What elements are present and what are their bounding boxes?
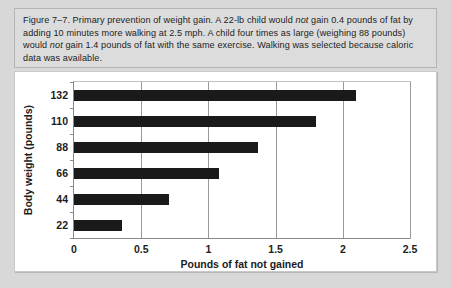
figure-caption-text: Figure 7–7. Primary prevention of weight… (23, 14, 429, 64)
y-tick-label: 88 (38, 141, 68, 153)
bar-22: 22 (74, 220, 122, 231)
x-gridline (276, 82, 277, 238)
y-axis-tick (70, 160, 74, 161)
y-axis-title: Body weight (pounds) (21, 81, 35, 239)
x-gridline (208, 82, 209, 238)
y-axis-tick (70, 212, 74, 213)
y-axis-tick (70, 238, 74, 239)
bar-88: 88 (74, 142, 258, 153)
bar-fill (74, 142, 258, 153)
plot-area: Pounds of fat not gained 00.511.522.5224… (73, 81, 411, 239)
x-tick-label: 2.5 (403, 243, 418, 255)
y-axis-tick (70, 134, 74, 135)
bar-fill (74, 90, 356, 101)
y-axis-tick (70, 82, 74, 83)
x-gridline (343, 82, 344, 238)
bar-fill (74, 168, 219, 179)
x-tick-label: 2 (340, 243, 346, 255)
bar-132: 132 (74, 90, 356, 101)
bar-fill (74, 116, 316, 127)
y-axis-title-label: Body weight (pounds) (22, 105, 34, 215)
chart-panel: Body weight (pounds) Pounds of fat not g… (14, 71, 437, 272)
x-gridline (410, 82, 411, 238)
y-tick-label: 44 (38, 193, 68, 205)
y-tick-label: 22 (38, 219, 68, 231)
x-tick-label: 1.5 (268, 243, 283, 255)
bar-110: 110 (74, 116, 316, 127)
x-tick-label: 0 (71, 243, 77, 255)
x-gridline (141, 82, 142, 238)
y-tick-label: 110 (38, 115, 68, 127)
y-tick-label: 66 (38, 167, 68, 179)
bar-66: 66 (74, 168, 219, 179)
x-tick-label: 1 (205, 243, 211, 255)
x-axis-title: Pounds of fat not gained (180, 258, 303, 270)
figure-container: Figure 7–7. Primary prevention of weight… (0, 0, 451, 288)
bar-fill (74, 194, 169, 205)
x-tick-label: 0.5 (134, 243, 149, 255)
bar-fill (74, 220, 122, 231)
y-tick-label: 132 (38, 89, 68, 101)
y-axis-tick (70, 108, 74, 109)
figure-caption-box: Figure 7–7. Primary prevention of weight… (14, 8, 437, 68)
y-axis-tick (70, 186, 74, 187)
bar-44: 44 (74, 194, 169, 205)
